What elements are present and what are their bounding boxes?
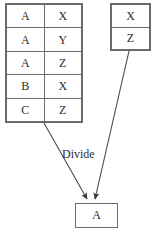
table-row: A X	[7, 5, 82, 28]
table-cell: A	[76, 204, 117, 227]
dividend-table: A X A Y A Z B X C Z	[5, 3, 83, 123]
diagram-canvas: A X A Y A Z B X C Z	[0, 0, 155, 244]
table-row: A Y	[7, 28, 82, 51]
table-cell: X	[112, 5, 150, 28]
table-cell: A	[7, 28, 45, 51]
table-cell: C	[7, 98, 45, 121]
table-row: X	[112, 5, 150, 28]
arrow-dividend-to-result	[44, 123, 87, 199]
divisor-table-grid: X Z	[111, 4, 150, 50]
table-row: C Z	[7, 98, 82, 121]
table-cell: Z	[112, 27, 150, 50]
table-row: A Z	[7, 51, 82, 74]
table-cell: X	[44, 75, 82, 98]
table-cell: Z	[44, 98, 82, 121]
table-row: Z	[112, 27, 150, 50]
dividend-table-grid: A X A Y A Z B X C Z	[6, 4, 82, 122]
table-cell: A	[7, 5, 45, 28]
divide-operation-label: Divide	[62, 148, 95, 160]
table-cell: B	[7, 75, 45, 98]
table-cell: Z	[44, 51, 82, 74]
arrow-divisor-to-result	[95, 51, 129, 199]
divisor-table: X Z	[110, 3, 151, 51]
table-cell: A	[7, 51, 45, 74]
table-cell: X	[44, 5, 82, 28]
table-row: B X	[7, 75, 82, 98]
table-cell: Y	[44, 28, 82, 51]
result-table: A	[75, 203, 118, 228]
